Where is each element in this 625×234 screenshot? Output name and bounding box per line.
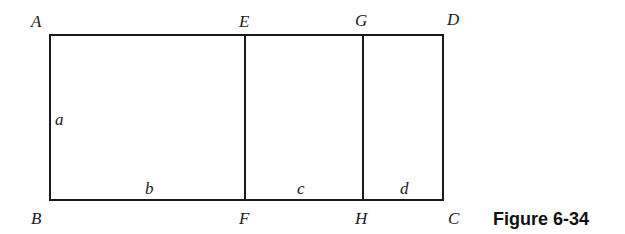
segment-label-b: b	[145, 179, 154, 198]
vertex-label-g: G	[355, 11, 367, 30]
vertex-label-a: A	[30, 12, 42, 31]
segment-label-a: a	[55, 110, 64, 129]
segment-label-c: c	[297, 179, 305, 198]
segment-label-d: d	[400, 179, 409, 198]
rectangle-diagram: A E G D B F H C a b c d Figure 6-34	[0, 0, 625, 234]
vertex-label-f: F	[238, 209, 250, 228]
vertex-label-b: B	[31, 209, 42, 228]
vertex-label-c: C	[448, 209, 460, 228]
rectangle-abcd	[50, 35, 443, 200]
vertex-label-h: H	[354, 209, 369, 228]
vertex-label-d: D	[446, 10, 460, 29]
figure-caption: Figure 6-34	[493, 209, 589, 229]
vertex-label-e: E	[238, 12, 250, 31]
